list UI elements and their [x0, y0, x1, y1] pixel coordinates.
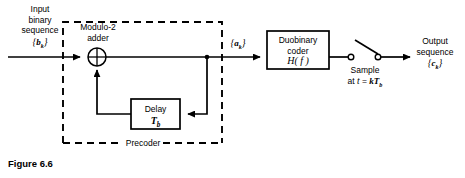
delay-label-line1: Delay — [131, 104, 180, 115]
sample-caption-line1: Sample — [331, 65, 399, 76]
coder-transfer-function: H( f ) — [267, 56, 329, 67]
input-label-line1: Input — [12, 4, 68, 15]
precoder-label: Precoder — [113, 138, 173, 149]
output-sequence-label: Output sequence {ck} — [407, 36, 463, 72]
sample-kT: kT — [369, 76, 379, 86]
coder-function-arg: ( f ) — [294, 55, 308, 66]
output-label-line1: Output — [407, 36, 463, 47]
sampling-switch-symbol — [348, 40, 381, 60]
figure-caption: Figure 6.6 — [8, 158, 53, 169]
intermediate-brace-close: } — [242, 38, 246, 48]
output-brace-close: } — [439, 58, 443, 68]
input-label-line3: sequence — [12, 25, 68, 36]
modulo-2-adder-label: Modulo-2 adder — [69, 22, 127, 43]
delay-symbol: Tb — [131, 116, 180, 130]
delay-var-subscript: b — [157, 120, 161, 128]
sample-caption: Sample at t = kTb — [331, 65, 399, 90]
feedback-path-left — [97, 70, 131, 114]
feedback-path-right — [188, 57, 207, 114]
adder-label-line1: Modulo-2 — [69, 22, 127, 33]
output-label-line2: sequence — [407, 47, 463, 58]
sample-kT-subscript: b — [379, 81, 382, 87]
sample-equals: = — [360, 76, 370, 86]
figure-container: Input binary sequence {bk} Modulo-2 adde… — [0, 0, 465, 178]
delay-block-label: Delay Tb — [131, 104, 180, 130]
duobinary-coder-label: Duobinary coder H( f ) — [267, 35, 329, 67]
input-sequence-label: Input binary sequence {bk} — [12, 4, 68, 51]
coder-label-line1: Duobinary — [267, 35, 329, 46]
input-symbol: {bk} — [12, 37, 68, 51]
intermediate-sequence-label: {ak} — [219, 38, 257, 52]
input-label-line2: binary — [12, 15, 68, 26]
sample-at-text: at — [348, 76, 357, 86]
adder-label-line2: adder — [69, 33, 127, 44]
sample-caption-line2: at t = kTb — [331, 76, 399, 90]
precoder-label-text: Precoder — [126, 138, 161, 148]
modulo-2-adder-symbol — [88, 48, 106, 66]
input-brace-close: } — [44, 37, 48, 47]
output-symbol: {ck} — [407, 58, 463, 72]
